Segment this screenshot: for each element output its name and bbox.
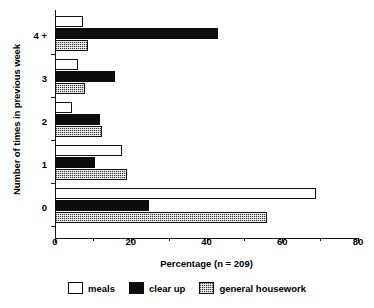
bar-meals-2	[55, 102, 72, 113]
y-tick-label-3: 3	[42, 73, 47, 84]
y-tick-label-0: 0	[42, 202, 47, 213]
x-axis-tick-minor	[244, 238, 245, 241]
y-axis-tick	[51, 183, 55, 184]
x-axis-tick-label: 60	[277, 236, 288, 247]
bar-row	[55, 212, 358, 223]
bar-row	[55, 59, 358, 70]
y-axis-tick	[51, 97, 55, 98]
y-axis-tick	[51, 54, 55, 55]
bar-housework-2	[55, 126, 102, 137]
bar-row	[55, 200, 358, 211]
y-tick-label-1: 1	[42, 159, 47, 170]
legend-swatch-general-housework	[199, 282, 214, 294]
bar-row	[55, 126, 358, 137]
bar-chart: Number of times in previous week 4 + 3 2…	[0, 0, 374, 308]
bar-row	[55, 157, 358, 168]
bar-group-1	[55, 145, 358, 181]
bar-row	[55, 71, 358, 82]
bar-meals-3	[55, 59, 78, 70]
bar-housework-0	[55, 212, 267, 223]
bar-row	[55, 16, 358, 27]
legend-item-clear-up: clear up	[129, 282, 185, 294]
y-axis-tick	[51, 140, 55, 141]
x-axis-tick-label: 40	[201, 236, 212, 247]
y-tick-label-2: 2	[42, 116, 47, 127]
x-axis-tick-label: 0	[52, 236, 57, 247]
bar-row	[55, 83, 358, 94]
legend-swatch-meals	[68, 282, 83, 294]
legend-label-general-housework: general housework	[219, 283, 306, 294]
x-axis-tick-label: 20	[125, 236, 136, 247]
bar-housework-4plus	[55, 40, 88, 51]
bar-group-4plus	[55, 16, 358, 52]
bar-group-2	[55, 102, 358, 138]
chart-legend: meals clear up general housework	[0, 282, 374, 294]
bar-meals-4plus	[55, 16, 83, 27]
legend-item-general-housework: general housework	[199, 282, 306, 294]
bar-housework-3	[55, 83, 85, 94]
bar-row	[55, 102, 358, 113]
legend-label-clear-up: clear up	[149, 283, 185, 294]
legend-item-meals: meals	[68, 282, 115, 294]
x-axis-tick-minor	[320, 238, 321, 241]
bar-clearup-1	[55, 157, 95, 168]
legend-label-meals: meals	[88, 283, 115, 294]
bar-clearup-2	[55, 114, 100, 125]
y-axis-tick	[51, 226, 55, 227]
y-tick-label-4plus: 4 +	[34, 30, 47, 41]
x-axis-tick-label: 80	[353, 236, 364, 247]
bar-clearup-3	[55, 71, 115, 82]
bar-group-3	[55, 59, 358, 95]
bar-housework-1	[55, 169, 127, 180]
bar-clearup-4plus	[55, 28, 218, 39]
bar-meals-0	[55, 188, 316, 199]
x-axis-tick-minor	[169, 238, 170, 241]
bar-row	[55, 169, 358, 180]
legend-swatch-clear-up	[129, 282, 144, 294]
bar-row	[55, 188, 358, 199]
x-axis-tick-minor	[93, 238, 94, 241]
bar-row	[55, 28, 358, 39]
plot-area	[55, 10, 358, 238]
bar-row	[55, 114, 358, 125]
bar-group-0	[55, 188, 358, 224]
x-axis-title: Percentage (n = 209)	[55, 258, 358, 269]
bar-row	[55, 145, 358, 156]
y-axis-category-labels: 4 + 3 2 1 0	[0, 10, 55, 238]
bar-row	[55, 40, 358, 51]
bar-meals-1	[55, 145, 122, 156]
bar-clearup-0	[55, 200, 149, 211]
